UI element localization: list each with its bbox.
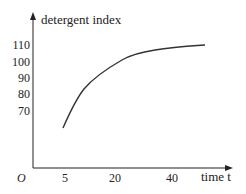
origin-label: O — [17, 172, 26, 184]
x-tick-40: 40 — [166, 172, 178, 184]
x-tick-20: 20 — [109, 172, 121, 184]
y-tick-100: 100 — [6, 56, 30, 68]
y-tick-110: 110 — [6, 39, 30, 51]
y-tick-80: 80 — [6, 88, 30, 100]
y-axis-arrow-icon — [30, 12, 36, 20]
x-tick-5: 5 — [62, 172, 68, 184]
data-line — [63, 45, 205, 128]
x-axis-label: time t — [201, 171, 231, 183]
y-tick-90: 90 — [6, 72, 30, 84]
y-tick-70: 70 — [6, 105, 30, 117]
chart-canvas — [0, 0, 246, 194]
line-chart: detergent index 110 100 90 80 70 O 5 20 … — [0, 0, 246, 194]
y-axis-label: detergent index — [41, 13, 121, 26]
